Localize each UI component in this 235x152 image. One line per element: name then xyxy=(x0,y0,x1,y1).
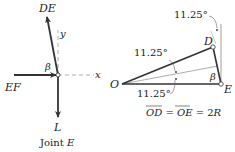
joint-e-diagram: DE y β EF x L Joint E xyxy=(4,2,101,148)
bisector-line xyxy=(122,66,218,84)
diagram-canvas: DE y β EF x L Joint E 11.25° 11.25° 11.2 xyxy=(0,0,235,152)
angle-upper-dot xyxy=(175,71,177,73)
geometry-diagram: 11.25° 11.25° 11.25° D O E β OD = OE = 2… xyxy=(110,9,232,118)
angle-lower-label: 11.25° xyxy=(137,88,171,99)
node-e xyxy=(219,82,223,86)
angle-top-leader xyxy=(209,16,217,28)
point-e-label: E xyxy=(223,83,232,96)
axis-y-label: y xyxy=(59,28,66,39)
point-d-label: D xyxy=(203,35,213,48)
force-ef-label: EF xyxy=(4,81,21,94)
angle-lower-leader xyxy=(170,80,175,94)
axis-x-label: x xyxy=(95,69,101,80)
angle-beta-label-geom: β xyxy=(209,71,216,82)
force-de-label: DE xyxy=(38,2,56,15)
force-l-label: L xyxy=(53,121,61,134)
angle-top-dot xyxy=(216,29,218,31)
point-o-label: O xyxy=(110,78,119,91)
length-equation: OD = OE = 2R xyxy=(146,107,222,118)
angle-upper-label: 11.25° xyxy=(134,47,168,58)
angle-lower-dot xyxy=(175,78,177,80)
joint-caption: Joint E xyxy=(39,137,75,148)
angle-top-label: 11.25° xyxy=(174,9,208,20)
joint-e-node xyxy=(56,73,60,77)
angle-upper-leader xyxy=(169,60,175,71)
angle-beta-label: β xyxy=(44,61,51,72)
